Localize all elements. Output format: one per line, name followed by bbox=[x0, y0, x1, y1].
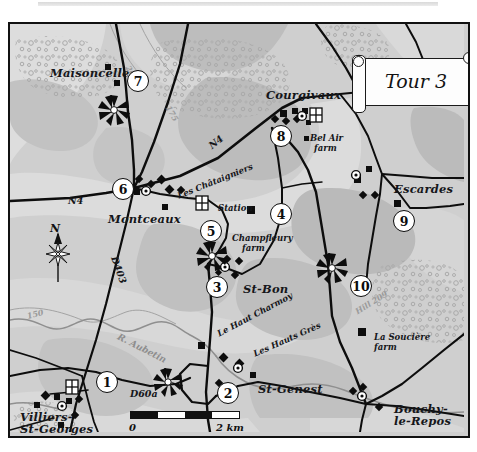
scale-segment bbox=[131, 412, 158, 418]
tour-stop-marker-3[interactable]: 3 bbox=[206, 276, 228, 298]
scale-bar-segments bbox=[130, 411, 240, 419]
top-gradient-bar bbox=[38, 2, 438, 6]
tour-stop-marker-2[interactable]: 2 bbox=[217, 382, 239, 404]
tour-stop-marker-7[interactable]: 7 bbox=[127, 70, 149, 92]
tour-stop-marker-4[interactable]: 4 bbox=[270, 203, 292, 225]
tour-stop-marker-1[interactable]: 1 bbox=[96, 371, 118, 393]
compass-rose: N bbox=[34, 224, 82, 286]
scale-bar: 0 2 km bbox=[130, 411, 252, 437]
scale-segment bbox=[212, 412, 239, 418]
scale-min-label: 0 bbox=[129, 422, 136, 433]
tour-stop-marker-10[interactable]: 10 bbox=[350, 275, 372, 297]
compass-north-label: N bbox=[50, 222, 60, 235]
map-title: Tour 3 bbox=[360, 58, 470, 104]
scale-max-label: 2 km bbox=[216, 422, 244, 433]
tour-map[interactable]: N 0 2 km Tour 3 MaisoncellesCourgiva bbox=[8, 22, 470, 438]
title-scroll: Tour 3 bbox=[348, 52, 470, 114]
tour-stop-marker-5[interactable]: 5 bbox=[200, 220, 222, 242]
scale-segment bbox=[185, 412, 212, 418]
tour-stop-marker-6[interactable]: 6 bbox=[112, 178, 134, 200]
scale-segment bbox=[158, 412, 185, 418]
window-top-strip bbox=[0, 0, 477, 10]
tour-stop-marker-9[interactable]: 9 bbox=[393, 210, 415, 232]
tour-stop-marker-8[interactable]: 8 bbox=[270, 125, 292, 147]
